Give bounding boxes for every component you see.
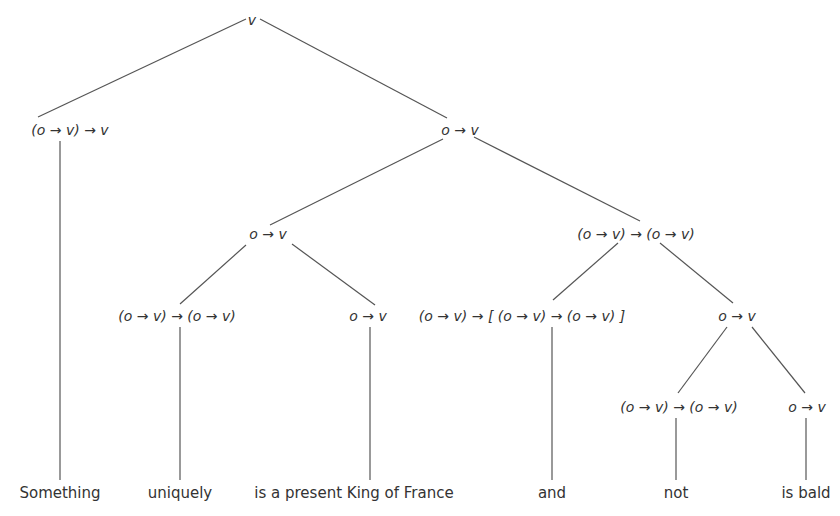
node-not-bald: o → v (718, 307, 755, 325)
edge-notbald-not (678, 327, 727, 393)
edge-notbald-bald (752, 327, 805, 393)
leaf-something: Something (19, 484, 100, 502)
node-bald-type: o → v (788, 398, 825, 416)
leaf-and: and (538, 484, 566, 502)
edge-conj-notbald (660, 243, 733, 303)
edge-vpleft-uniquely (180, 245, 246, 304)
edge-vpleft-king (292, 244, 375, 305)
edge-root-vp (260, 19, 447, 118)
node-something-type: (o → v) → v (31, 121, 108, 139)
node-not-type: (o → v) → (o → v) (620, 398, 737, 416)
node-uniquely-type: (o → v) → (o → v) (118, 307, 235, 325)
node-vp-left: o → v (249, 225, 286, 243)
edge-vp-left (270, 139, 443, 225)
leaf-uniquely: uniquely (148, 484, 212, 502)
edge-vp-conj (474, 137, 640, 221)
edge-conj-and (553, 243, 618, 300)
node-root: v (248, 11, 256, 29)
leaf-king-of-france: is a present King of France (254, 484, 453, 502)
tree-edges (0, 0, 840, 516)
node-and-type: (o → v) → [ (o → v) → (o → v) ] (419, 307, 625, 325)
node-vp: o → v (441, 121, 478, 139)
node-king-type: o → v (349, 307, 386, 325)
leaf-not: not (664, 484, 689, 502)
leaf-is-bald: is bald (781, 484, 830, 502)
edge-root-something (38, 19, 246, 117)
node-conj-phrase: (o → v) → (o → v) (577, 225, 694, 243)
